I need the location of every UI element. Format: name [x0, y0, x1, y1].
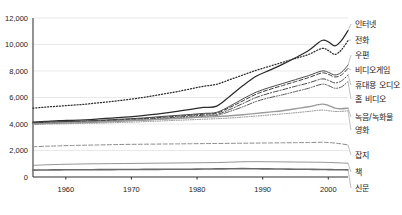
leader-line-3 [348, 68, 351, 70]
y-tick-label: 12,000 [5, 14, 28, 23]
y-tick-label: 10,000 [5, 40, 28, 49]
series-line-10 [33, 169, 348, 170]
leader-line-0 [348, 24, 351, 31]
gridlines [33, 18, 348, 177]
series-line-4 [33, 75, 348, 123]
y-tick-label: 8,000 [9, 67, 28, 76]
x-axis-tick-labels: 19601970198019902000 [57, 177, 336, 194]
series-label-5: 홈 비디오 [355, 94, 386, 104]
x-tick-label: 1960 [57, 185, 74, 194]
data-series [33, 31, 348, 171]
series-label-7: 영화 [355, 125, 370, 135]
series-leader-lines [348, 24, 351, 188]
y-tick-label: 0 [24, 173, 28, 182]
leader-line-10 [348, 170, 351, 188]
series-line-3 [33, 68, 348, 123]
series-label-9: 책 [355, 167, 362, 177]
series-line-2 [33, 65, 348, 123]
x-tick-label: 1970 [123, 185, 140, 194]
chart-canvas: 02,0004,0006,0008,00010,00012,000 196019… [0, 0, 402, 215]
x-tick-label: 2000 [320, 185, 337, 194]
series-label-6: 녹음/녹화물 [355, 113, 393, 122]
series-label-3: 비디오게임 [355, 65, 390, 75]
x-tick-label: 1980 [189, 185, 206, 194]
series-label-10: 신문 [355, 184, 369, 193]
series-label-4: 휴대용 오디오 [355, 81, 400, 90]
leader-line-2 [348, 55, 351, 65]
series-line-9 [33, 162, 348, 166]
y-tick-label: 2,000 [9, 146, 28, 155]
media-usage-line-chart: 02,0004,0006,0008,00010,00012,000 196019… [0, 0, 402, 215]
leader-line-9 [348, 163, 351, 172]
leader-line-8 [348, 145, 351, 155]
series-label-2: 우편 [355, 50, 369, 60]
x-tick-label: 1990 [254, 185, 271, 194]
leader-line-7 [348, 111, 351, 130]
series-labels: 인터넷전화우편비디오게임휴대용 오디오홈 비디오녹음/녹화물영화잡지책신문 [355, 19, 400, 193]
series-label-8: 잡지 [355, 150, 369, 160]
y-axis-tick-labels: 02,0004,0006,0008,00010,00012,000 [5, 14, 28, 182]
leader-line-1 [348, 40, 351, 41]
series-label-1: 전화 [355, 35, 370, 45]
series-line-1 [33, 41, 348, 109]
series-line-8 [33, 142, 348, 147]
y-tick-label: 4,000 [9, 120, 28, 129]
y-tick-label: 6,000 [9, 93, 28, 102]
series-label-0: 인터넷 [355, 19, 376, 29]
